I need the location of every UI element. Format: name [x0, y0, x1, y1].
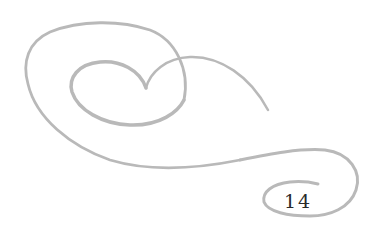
page-number: 14: [278, 190, 318, 212]
inner-loop: [71, 62, 184, 125]
